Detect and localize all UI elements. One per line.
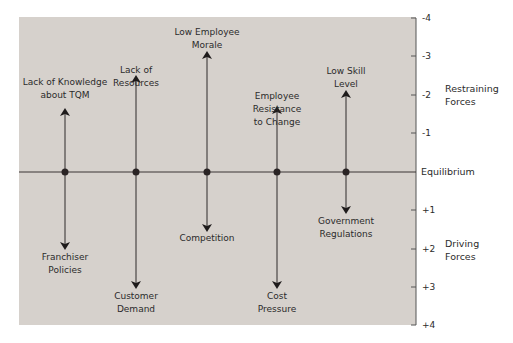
label-cost-pressure: Cost Pressure <box>258 290 296 316</box>
label-low-employee-morale: Low Employee Morale <box>174 26 239 52</box>
tick-minus-1: -1 <box>422 128 431 138</box>
label-government-regulations: Government Regulations <box>318 215 374 241</box>
label-low-skill-level: Low Skill Level <box>326 65 365 91</box>
driving-forces-label: Driving Forces <box>445 237 479 263</box>
tick-plus-4: +4 <box>422 320 435 330</box>
label-customer-demand: Customer Demand <box>114 290 158 316</box>
label-lack-of-resources: Lack of Resources <box>113 64 159 90</box>
tick-minus-4: -4 <box>422 13 431 23</box>
tick-minus-2: -2 <box>422 90 431 100</box>
label-employee-resistance: Employee Resistance to Change <box>253 90 302 129</box>
tick-plus-2: +2 <box>422 244 435 254</box>
restraining-forces-label: Restraining Forces <box>445 82 499 108</box>
label-franchiser-policies: Franchiser Policies <box>42 251 89 277</box>
equilibrium-label: Equilibrium <box>421 165 475 178</box>
tick-plus-1: +1 <box>422 205 435 215</box>
tick-minus-3: -3 <box>422 51 431 61</box>
label-competition: Competition <box>179 232 234 245</box>
tick-plus-3: +3 <box>422 282 435 292</box>
label-lack-of-knowledge: Lack of Knowledge about TQM <box>23 76 108 102</box>
